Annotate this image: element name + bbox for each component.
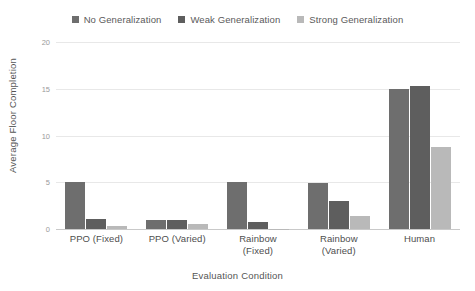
- bar-group: [298, 42, 379, 229]
- bar[interactable]: [410, 86, 430, 229]
- bar[interactable]: [167, 220, 187, 229]
- legend-item-no-generalization: No Generalization: [72, 14, 162, 25]
- bar[interactable]: [146, 220, 166, 229]
- bar[interactable]: [86, 219, 106, 229]
- bar[interactable]: [329, 201, 349, 229]
- legend-swatch-weak-generalization: [178, 16, 185, 23]
- x-axis-category-label: PPO (Varied): [137, 233, 218, 257]
- bar[interactable]: [350, 216, 370, 229]
- bar[interactable]: [431, 147, 451, 229]
- legend-swatch-no-generalization: [72, 16, 79, 23]
- bar[interactable]: [308, 183, 328, 229]
- y-axis-title-text: Average Floor Completion: [7, 58, 18, 173]
- x-axis-category-labels: PPO (Fixed)PPO (Varied)Rainbow(Fixed)Rai…: [56, 233, 460, 257]
- legend-label-strong-generalization: Strong Generalization: [309, 14, 403, 25]
- bar-chart: No Generalization Weak Generalization St…: [0, 0, 475, 291]
- bar-group: [137, 42, 218, 229]
- bar-group: [218, 42, 299, 229]
- legend-item-strong-generalization: Strong Generalization: [297, 14, 403, 25]
- bar-group: [56, 42, 137, 229]
- y-axis-title: Average Floor Completion: [4, 0, 20, 231]
- bar[interactable]: [389, 89, 409, 229]
- y-axis-tick-label: 0: [46, 225, 50, 234]
- x-axis-category-label: Rainbow(Fixed): [218, 233, 299, 257]
- legend-item-weak-generalization: Weak Generalization: [178, 14, 280, 25]
- bar-groups: [56, 42, 460, 229]
- x-axis-title-text: Evaluation Condition: [192, 270, 283, 281]
- bar[interactable]: [227, 182, 247, 229]
- x-axis-category-label: PPO (Fixed): [56, 233, 137, 257]
- y-axis-tick-label: 15: [42, 84, 50, 93]
- bar[interactable]: [248, 222, 268, 229]
- legend-label-no-generalization: No Generalization: [84, 14, 162, 25]
- y-axis-tick-label: 5: [46, 178, 50, 187]
- plot-area: 05101520: [56, 42, 460, 229]
- x-axis-category-label: Human: [379, 233, 460, 257]
- chart-legend: No Generalization Weak Generalization St…: [0, 14, 475, 25]
- y-axis-tick-label: 10: [42, 131, 50, 140]
- y-axis-tick-label: 20: [42, 38, 50, 47]
- x-axis-category-label: Rainbow(Varied): [298, 233, 379, 257]
- bar[interactable]: [107, 226, 127, 229]
- legend-swatch-strong-generalization: [297, 16, 304, 23]
- bar-group: [379, 42, 460, 229]
- legend-label-weak-generalization: Weak Generalization: [190, 14, 280, 25]
- bar[interactable]: [188, 224, 208, 229]
- x-axis-line: [56, 229, 460, 230]
- bar[interactable]: [65, 182, 85, 229]
- x-axis-title: Evaluation Condition: [0, 270, 475, 281]
